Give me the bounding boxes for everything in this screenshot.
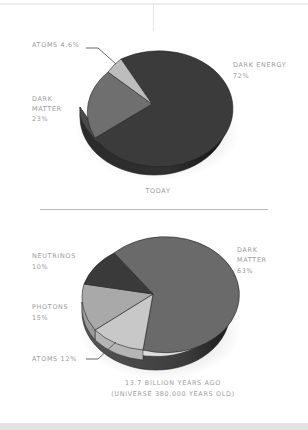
label-dark-energy-name: DARK ENERGY bbox=[233, 60, 286, 70]
label-dark-matter-today-line2: MATTER bbox=[32, 104, 62, 114]
label-dark-energy-pct: 72% bbox=[233, 71, 249, 81]
label-neutrinos-pct: 10% bbox=[32, 262, 48, 272]
leader-atoms-today bbox=[86, 48, 116, 64]
label-neutrinos-name: NEUTRINOS bbox=[32, 251, 76, 261]
label-dark-matter-early-pct: 63% bbox=[237, 266, 253, 276]
label-dark-matter-today-line1: DARK bbox=[32, 94, 53, 104]
label-dark-matter-early-line2: MATTER bbox=[237, 255, 267, 265]
footer-band bbox=[0, 423, 308, 430]
label-photons-pct: 15% bbox=[32, 313, 48, 323]
section-divider bbox=[40, 209, 268, 210]
pie-early bbox=[78, 237, 242, 380]
label-photons-name: PHOTONS bbox=[32, 302, 68, 312]
pie-today bbox=[76, 48, 240, 180]
caption-early-line1: 13.7 BILLION YEARS AGO bbox=[98, 378, 248, 388]
label-atoms-early: ATOMS 12% bbox=[32, 354, 77, 364]
caption-today: TODAY bbox=[128, 186, 188, 196]
caption-early-line2: (UNIVERSE 380,000 YEARS OLD) bbox=[98, 389, 248, 399]
label-atoms-today: ATOMS 4.6% bbox=[32, 40, 80, 50]
label-dark-matter-today-pct: 23% bbox=[32, 114, 48, 124]
label-dark-matter-early-line1: DARK bbox=[237, 245, 258, 255]
